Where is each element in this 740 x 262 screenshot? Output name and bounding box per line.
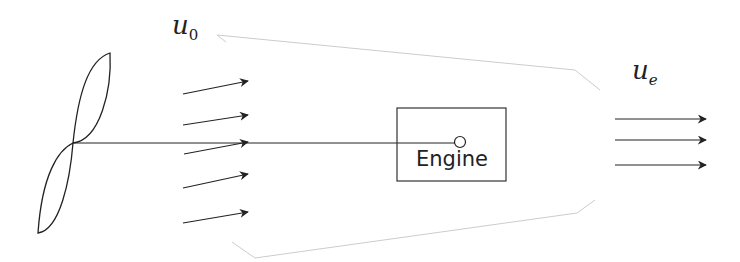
flow-tube-outline	[217, 35, 600, 258]
engine-shaft-circle	[455, 137, 466, 148]
propulsion-diagram	[0, 0, 740, 262]
exit-velocity-subscript: e	[649, 71, 658, 89]
exit-flow-arrows	[615, 119, 706, 165]
inlet-flow-arrows	[183, 81, 248, 223]
engine-label: Engine	[416, 147, 488, 171]
inlet-velocity-symbol: u	[172, 10, 189, 40]
exit-velocity-symbol: u	[632, 55, 649, 85]
inlet-velocity-label: u0	[172, 10, 198, 40]
exit-velocity-label: ue	[632, 55, 658, 85]
inlet-velocity-subscript: 0	[189, 26, 199, 44]
